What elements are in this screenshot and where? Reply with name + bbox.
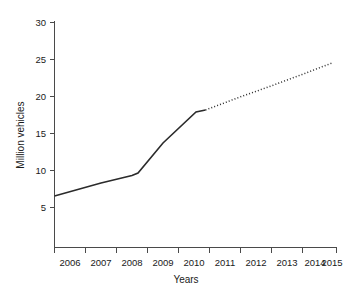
x-tick-label-2013: 2013 <box>276 257 297 268</box>
x-tick-label-2006: 2006 <box>59 257 80 268</box>
y-tick-label-25: 25 <box>35 54 46 65</box>
y-tick-label-15: 15 <box>35 128 46 139</box>
x-tick-label-2011: 2011 <box>215 257 235 268</box>
x-tick-label-2015: 2015 <box>321 257 342 268</box>
x-axis-title: Years <box>173 274 198 285</box>
series-actual-line <box>55 110 206 196</box>
x-tick-label-2007: 2007 <box>90 257 111 268</box>
x-tick-label-2009: 2009 <box>152 257 173 268</box>
y-tick-label-5: 5 <box>41 202 46 213</box>
chart-canvas: 30 25 20 15 10 5 2006 2007 2008 2009 201… <box>0 0 345 296</box>
x-tick-label-2010: 2010 <box>183 257 204 268</box>
y-tick-label-20: 20 <box>35 91 46 102</box>
y-tick-label-10: 10 <box>35 165 46 176</box>
x-tick-label-2008: 2008 <box>121 257 142 268</box>
x-axis-ticks <box>55 248 337 253</box>
y-axis-title: Million vehicles <box>15 101 26 168</box>
line-chart-figure: 30 25 20 15 10 5 2006 2007 2008 2009 201… <box>0 0 345 296</box>
series-forecast-line <box>206 63 333 110</box>
y-axis-ticks <box>50 23 55 208</box>
y-tick-label-30: 30 <box>35 17 46 28</box>
x-tick-label-2012: 2012 <box>245 257 266 268</box>
